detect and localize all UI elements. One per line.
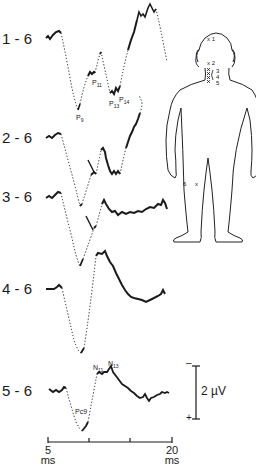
trace-label-3-6: 3 - 6 xyxy=(2,189,32,204)
neck-electrodes xyxy=(207,68,213,83)
trace-label-4-6: 4 - 6 xyxy=(2,281,32,296)
calibration-neg: – xyxy=(186,357,192,368)
peak-label-n11: N11 xyxy=(93,364,103,372)
trace-4-6 xyxy=(46,251,165,353)
peak-label-p14: P14 xyxy=(119,96,129,104)
electrode-1-label: x 1 xyxy=(207,36,215,42)
electrode-2-label: x 2 xyxy=(207,60,215,66)
peak-label-p9: P9 xyxy=(76,114,83,122)
electrode-6-marker: x xyxy=(195,181,198,187)
calibration-bar xyxy=(192,366,200,419)
electrode-6-label: 6 xyxy=(183,181,186,187)
trace-label-2-6: 2 - 6 xyxy=(2,130,32,145)
peak-label-pc9: Pc9 xyxy=(75,408,87,415)
peak-label-p11: P11 xyxy=(92,79,102,87)
peak-label-n13: N13 xyxy=(108,360,119,368)
trace-5-6 xyxy=(49,366,169,431)
trace-2-6 xyxy=(46,95,142,206)
time-axis-end: 20 ms xyxy=(160,445,184,465)
time-axis-start: 5 ms xyxy=(40,445,56,465)
trace-label-5-6: 5 - 6 xyxy=(2,383,32,398)
electrode-5-label: 5 xyxy=(216,80,219,86)
trace-label-1-6: 1 - 6 xyxy=(2,31,32,46)
calibration-value: 2 µV xyxy=(201,384,226,398)
time-axis xyxy=(48,437,172,443)
trace-1-6 xyxy=(46,4,167,110)
peak-label-p13: P13 xyxy=(109,100,119,108)
calibration-pos: + xyxy=(186,412,192,423)
